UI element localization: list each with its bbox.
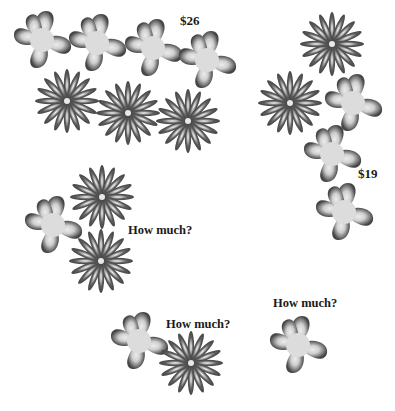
daisy-flower-icon: [160, 332, 222, 394]
five-petal-flower-icon: [301, 123, 363, 185]
five-petal-flower-icon: [66, 12, 128, 74]
daisy-flower-icon: [70, 230, 132, 292]
price-label: $26: [180, 14, 200, 27]
five-petal-flower-icon: [313, 181, 375, 243]
daisy-flower-icon: [97, 82, 159, 144]
question-label: How much?: [128, 224, 192, 237]
five-petal-flower-icon: [267, 314, 329, 376]
price-label: $19: [358, 167, 378, 180]
question-label: How much?: [273, 297, 337, 310]
daisy-flower-icon: [36, 70, 98, 132]
five-petal-flower-icon: [176, 29, 238, 91]
question-label: How much?: [166, 318, 230, 331]
five-petal-flower-icon: [122, 17, 184, 79]
daisy-flower-icon: [157, 90, 219, 152]
flower-price-puzzle: $26 $19 How much? How much? How much?: [0, 0, 395, 411]
daisy-flower-icon: [301, 13, 363, 75]
five-petal-flower-icon: [11, 9, 73, 71]
